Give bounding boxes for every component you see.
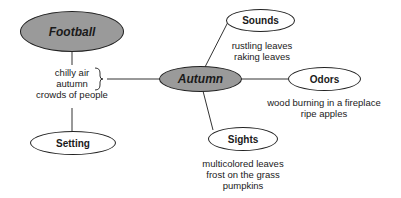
football-label: Football <box>49 25 96 39</box>
sounds-detail: raking leaves <box>218 51 306 62</box>
sights-label: Sights <box>228 134 259 145</box>
football-node: Football <box>20 11 124 52</box>
sounds-node: Sounds <box>226 9 295 32</box>
odors-label: Odors <box>310 74 339 85</box>
sounds-detail: rustling leaves <box>218 40 306 51</box>
sounds-details: rustling leaves raking leaves <box>218 40 306 62</box>
odors-detail: wood burning in a fireplace <box>258 97 390 108</box>
sounds-label: Sounds <box>242 15 279 26</box>
setting-node: Setting <box>30 131 116 155</box>
setting-detail: crowds of people <box>22 89 122 100</box>
setting-detail: chilly air <box>22 67 122 78</box>
odors-details: wood burning in a fireplace ripe apples <box>258 97 390 119</box>
sights-detail: pumpkins <box>193 180 293 191</box>
setting-details: chilly air autumn crowds of people <box>22 67 122 100</box>
odors-detail: ripe apples <box>258 108 390 119</box>
setting-detail: autumn <box>22 78 122 89</box>
autumn-node: Autumn <box>159 66 242 92</box>
sights-details: multicolored leaves frost on the grass p… <box>193 158 293 191</box>
sights-node: Sights <box>208 127 278 151</box>
sights-detail: frost on the grass <box>193 169 293 180</box>
setting-label: Setting <box>56 138 90 149</box>
odors-node: Odors <box>288 67 361 91</box>
sights-detail: multicolored leaves <box>193 158 293 169</box>
autumn-label: Autumn <box>178 72 223 86</box>
